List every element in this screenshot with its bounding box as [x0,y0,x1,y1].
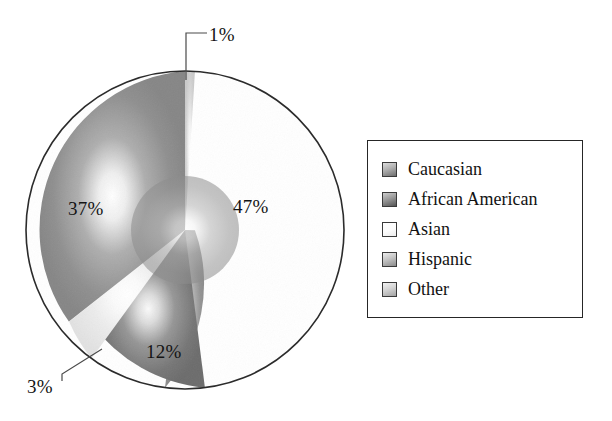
legend-label-african-american: African American [408,190,537,208]
legend-label-hispanic: Hispanic [408,250,472,268]
legend-item-hispanic[interactable]: Hispanic [382,244,582,274]
slice-label-caucasian: 47% [233,197,269,216]
slice-label-hispanic: 37% [68,199,104,218]
slice-label-african-american: 12% [146,342,182,361]
pie-center-highlight [131,176,239,284]
legend-swatch-asian [382,222,397,237]
legend-swatch-other [382,282,397,297]
legend-item-caucasian[interactable]: Caucasian [382,154,582,184]
legend-item-asian[interactable]: Asian [382,214,582,244]
legend-label-asian: Asian [408,220,450,238]
legend-label-caucasian: Caucasian [408,160,482,178]
slice-label-asian: 3% [27,377,53,396]
pie-chart-figure: 47% 37% 12% 1% 3% Caucasian African Amer… [0,0,612,421]
pie-slices [23,68,347,392]
legend-label-other: Other [408,280,449,298]
legend: Caucasian African American Asian Hispani… [367,140,583,318]
pie-chart [23,68,347,392]
legend-item-african-american[interactable]: African American [382,184,582,214]
legend-swatch-hispanic [382,252,397,267]
legend-item-other[interactable]: Other [382,274,582,304]
legend-swatch-caucasian [382,162,397,177]
slice-label-other: 1% [209,25,235,44]
legend-swatch-african-american [382,192,397,207]
